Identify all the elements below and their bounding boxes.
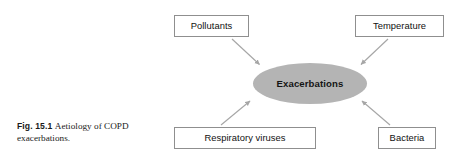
node-respiratory-viruses: Respiratory viruses (174, 127, 316, 149)
arrow-pollutants-to-exacerbations (232, 39, 260, 65)
arrow-bacteria-to-exacerbations (362, 101, 390, 125)
node-temperature-label: Temperature (373, 21, 426, 30)
arrow-temperature-to-exacerbations (361, 39, 388, 65)
node-pollutants: Pollutants (174, 15, 249, 37)
node-respiratory-viruses-label: Respiratory viruses (204, 133, 285, 142)
arrow-respiratory-viruses-to-exacerbations (221, 101, 250, 125)
node-temperature: Temperature (355, 15, 444, 37)
node-pollutants-label: Pollutants (191, 21, 233, 30)
node-exacerbations: Exacerbations (253, 63, 367, 104)
figure-container: Fig. 15.1Aetiology of COPD exacerbations… (0, 0, 459, 160)
node-bacteria: Bacteria (378, 127, 436, 149)
node-exacerbations-label: Exacerbations (277, 78, 344, 89)
node-bacteria-label: Bacteria (390, 133, 425, 142)
